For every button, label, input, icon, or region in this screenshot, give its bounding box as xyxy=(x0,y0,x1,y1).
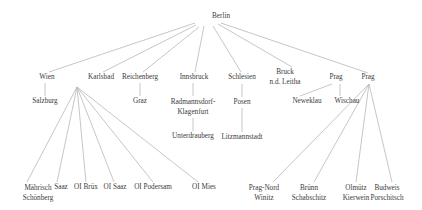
node-bruck: Bruckn.d. Leitha xyxy=(270,68,301,87)
edge-berlin-schlesien xyxy=(213,26,241,72)
node-label-line: OI Podersam xyxy=(134,183,172,193)
node-oi-podersam: OI Podersam xyxy=(134,183,172,193)
node-label-line: Wien xyxy=(39,73,54,83)
edge-berlin-karlsbad xyxy=(103,25,196,72)
node-label-line: Karlsbad xyxy=(88,73,114,83)
node-label-line: Schönberg xyxy=(23,193,54,203)
node-prag1: Prag xyxy=(329,73,342,83)
node-posen: Posen xyxy=(233,98,250,108)
node-label-line: Graz xyxy=(133,97,147,107)
node-label-line: Posen xyxy=(233,98,250,108)
node-label-line: Innsbruck xyxy=(180,73,209,83)
edge-prag1-neweklau xyxy=(300,84,332,96)
edge-karlsbad-saaz xyxy=(57,87,77,182)
node-prag-nord: Prag-NordWinitz xyxy=(249,184,279,203)
node-label-line: Schlesien xyxy=(228,73,256,83)
node-bruenn: BrünnSchabschitz xyxy=(292,184,326,203)
edge-berlin-innsbruck xyxy=(195,26,204,72)
node-prag2: Prag xyxy=(361,73,374,83)
node-label-line: Berlin xyxy=(212,12,230,22)
node-label-line: Saaz xyxy=(54,183,68,193)
node-label-line: Klagenfurt xyxy=(171,107,216,117)
edge-berlin-prag2 xyxy=(221,23,368,73)
node-litzmannstadt: Litzmannstadt xyxy=(221,133,262,143)
edge-prag2-budweis xyxy=(369,84,392,182)
node-label-line: Neweklau xyxy=(292,97,321,107)
edge-karlsbad-oi-bruex xyxy=(77,87,86,182)
node-label-line: Radmannsdorf- xyxy=(171,98,216,108)
node-berlin: Berlin xyxy=(212,12,230,22)
node-budweis: BudweisPorschitsch xyxy=(370,184,403,203)
node-label-line: Winitz xyxy=(249,193,279,203)
node-olmuetz: OlmützKierwein xyxy=(343,184,370,203)
node-maehrisch: MährischSchönberg xyxy=(23,184,54,203)
node-label-line: Litzmannstadt xyxy=(221,133,262,143)
node-label-line: Unterdrauberg xyxy=(172,132,214,142)
node-label-line: Olmütz xyxy=(343,184,370,194)
node-label-line: Wischau xyxy=(335,97,360,107)
node-label-line: OI Saaz xyxy=(104,183,127,193)
node-label-line: Prag xyxy=(361,73,374,83)
node-wien: Wien xyxy=(39,73,54,83)
node-graz: Graz xyxy=(133,97,147,107)
node-label-line: Schabschitz xyxy=(292,193,326,203)
node-label-line: Salzburg xyxy=(32,97,57,107)
node-schlesien: Schlesien xyxy=(228,73,256,83)
node-unterdrauberg: Unterdrauberg xyxy=(172,132,214,142)
node-radmannsdorf: Radmannsdorf-Klagenfurt xyxy=(171,98,216,117)
node-label-line: Brünn xyxy=(292,184,326,194)
edge-berlin-reichenberg xyxy=(143,27,199,72)
node-label-line: Mährisch xyxy=(23,184,54,194)
node-reichenberg: Reichenberg xyxy=(122,73,158,83)
node-label-line: Kierwein xyxy=(343,193,370,203)
node-oi-saaz: OI Saaz xyxy=(104,183,127,193)
node-saaz: Saaz xyxy=(54,183,68,193)
node-label-line: OI Brüx xyxy=(74,183,98,193)
node-label-line: Porschitsch xyxy=(370,193,403,203)
node-wischau: Wischau xyxy=(335,97,360,107)
node-label-line: n.d. Leitha xyxy=(270,77,301,87)
node-oi-bruex: OI Brüx xyxy=(74,183,98,193)
edge-berlin-bruck xyxy=(218,24,292,67)
node-neweklau: Neweklau xyxy=(292,97,321,107)
node-label-line: Prag xyxy=(329,73,342,83)
node-innsbruck: Innsbruck xyxy=(180,73,209,83)
node-salzburg: Salzburg xyxy=(32,97,57,107)
node-label-line: Budweis xyxy=(370,184,403,194)
node-label-line: Bruck xyxy=(270,68,301,78)
node-karlsbad: Karlsbad xyxy=(88,73,114,83)
node-label-line: OI Mies xyxy=(192,183,216,193)
node-label-line: Reichenberg xyxy=(122,73,158,83)
node-oi-mies: OI Mies xyxy=(192,183,216,193)
node-label-line: Prag-Nord xyxy=(249,184,279,194)
